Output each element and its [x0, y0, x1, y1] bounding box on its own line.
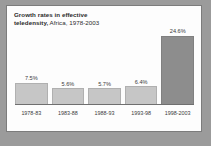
category-axis-labels: 1978-83 1983-88 1988-93 1993-98 1998-200…	[15, 107, 194, 119]
bar-value-label: 5.7%	[98, 81, 111, 87]
chart-title-line-2: teledensity, Africa, 1978-2003	[14, 19, 164, 27]
chart-title-line-2-rest: Africa, 1978-2003	[48, 19, 99, 26]
bar-group: 24.6%	[161, 28, 194, 105]
bar-group: 6.4%	[125, 28, 158, 105]
category-label: 1983-88	[52, 110, 85, 116]
bar-rect[interactable]	[125, 86, 158, 105]
bars-row: 7.5% 5.6% 5.7% 6.4% 24.6%	[15, 28, 194, 105]
category-label: 1988-93	[88, 110, 121, 116]
bar-rect[interactable]	[52, 88, 85, 105]
bar-value-label: 24.6%	[170, 28, 186, 34]
bar-group: 5.6%	[52, 28, 85, 105]
bar-value-label: 7.5%	[25, 75, 38, 81]
category-label: 1978-83	[15, 110, 48, 116]
chart-title-line-1: Growth rates in effective	[14, 11, 164, 19]
category-label: 1998-2003	[161, 110, 194, 116]
bar-rect[interactable]	[15, 83, 48, 105]
bar-value-label: 6.4%	[135, 79, 148, 85]
axis-baseline	[15, 104, 194, 105]
chart-title-line-2-bold: teledensity,	[14, 19, 48, 26]
bar-rect[interactable]	[88, 88, 121, 105]
bar-group: 7.5%	[15, 28, 48, 105]
chart-title: Growth rates in effective teledensity, A…	[14, 11, 164, 28]
bar-value-label: 5.6%	[62, 81, 75, 87]
plot-area: 7.5% 5.6% 5.7% 6.4% 24.6% 1978-8	[15, 28, 194, 125]
chart-figure-frame: Growth rates in effective teledensity, A…	[6, 5, 202, 132]
bar-rect[interactable]	[161, 36, 194, 106]
category-label: 1993-98	[125, 110, 158, 116]
bar-group: 5.7%	[88, 28, 121, 105]
